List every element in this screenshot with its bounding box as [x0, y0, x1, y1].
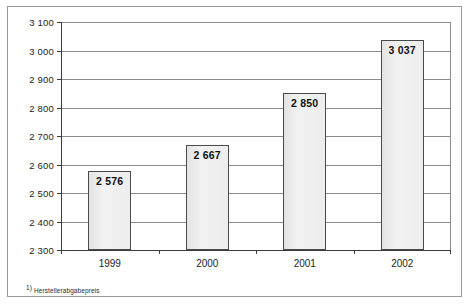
y-tick-mark [57, 22, 61, 23]
bar-1999: 2 576 [88, 171, 131, 250]
y-axis-tick-label: 3 100 [29, 17, 54, 28]
bar-value-label: 2 850 [284, 97, 325, 109]
x-axis-label-1999: 1999 [99, 258, 121, 269]
bar-2002: 3 037 [381, 40, 424, 250]
bar-2000: 2 667 [186, 145, 229, 250]
bar-2001: 2 850 [283, 93, 326, 250]
figure-frame: 2 3002 4002 5002 6002 7002 8002 9003 000… [7, 6, 462, 297]
y-axis-tick-label: 2 900 [29, 74, 54, 85]
footnote: 1) Herstellerabgabepreis [26, 284, 100, 294]
bar-value-label: 3 037 [382, 44, 423, 56]
x-axis-label-2000: 2000 [196, 258, 218, 269]
y-axis-line [61, 22, 62, 250]
y-axis-tick-label: 3 000 [29, 45, 54, 56]
chart-screenshot: 2 3002 4002 5002 6002 7002 8002 9003 000… [0, 0, 470, 308]
y-axis-tick-label: 2 800 [29, 102, 54, 113]
y-tick-mark [57, 108, 61, 109]
y-axis-tick-label: 2 300 [29, 245, 54, 256]
y-tick-mark [57, 79, 61, 80]
bar-value-label: 2 576 [89, 175, 130, 187]
x-tick-mark [354, 250, 355, 254]
x-axis-label-2002: 2002 [391, 258, 413, 269]
y-tick-mark [57, 136, 61, 137]
x-tick-mark [159, 250, 160, 254]
y-axis-tick-label: 2 500 [29, 188, 54, 199]
x-tick-mark [256, 250, 257, 254]
y-tick-mark [57, 193, 61, 194]
y-tick-mark [57, 165, 61, 166]
y-axis-tick-label: 2 600 [29, 159, 54, 170]
x-tick-mark [61, 250, 62, 254]
footnote-text: Herstellerabgabepreis [34, 287, 100, 294]
x-tick-mark [450, 250, 451, 254]
bar-value-label: 2 667 [187, 149, 228, 161]
y-axis-tick-label: 2 400 [29, 216, 54, 227]
x-axis-label-2001: 2001 [294, 258, 316, 269]
gridline [61, 22, 451, 23]
y-tick-mark [57, 222, 61, 223]
y-tick-mark [57, 51, 61, 52]
y-axis-tick-label: 2 700 [29, 131, 54, 142]
plot-right-edge [450, 22, 451, 250]
plot-area: 2 3002 4002 5002 6002 7002 8002 9003 000… [61, 22, 451, 255]
footnote-marker: 1) [26, 284, 32, 291]
